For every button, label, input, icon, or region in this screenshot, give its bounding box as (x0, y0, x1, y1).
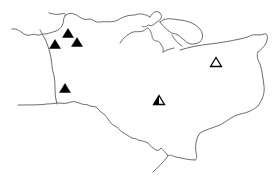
filled-triangle-marker (63, 29, 74, 38)
filled-triangle-marker (50, 40, 61, 49)
site-markers (50, 29, 222, 105)
south-coastline (132, 138, 195, 172)
southwest-border (18, 102, 132, 138)
sheppey-island (160, 19, 203, 46)
east-coastline (195, 52, 264, 160)
triangle-icon (50, 40, 61, 49)
north-kent-coast (180, 34, 267, 52)
map-canvas (0, 0, 277, 181)
filled-triangle-marker (60, 84, 71, 93)
triangle-icon (211, 58, 222, 67)
triangle-icon (72, 38, 83, 47)
hollow-triangle-marker (211, 58, 222, 67)
estuary-islands (120, 12, 174, 52)
half-filled-triangle-marker (154, 96, 165, 105)
triangle-icon (60, 84, 71, 93)
north-coastline (12, 13, 65, 35)
triangle-icon (63, 29, 74, 38)
north-coastline-middle (65, 13, 150, 22)
map-figure (0, 0, 277, 181)
filled-triangle-marker (72, 38, 83, 47)
